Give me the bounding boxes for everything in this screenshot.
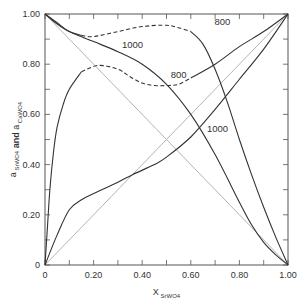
x-axis-title: X SrWO4 (153, 287, 181, 299)
curve-label: 1000 (207, 123, 228, 134)
curve-path (81, 25, 190, 36)
y-axis-label: a SrWO4 and a CaWO4 (8, 101, 23, 177)
y-tick-label: 0.20 (22, 210, 40, 220)
chart-svg: 00.200.400.600.801.0000.200.400.600.801.… (0, 0, 301, 301)
y-tick-label: 0.40 (22, 160, 40, 170)
curve-path (191, 14, 288, 78)
y-tick-label: 0 (35, 260, 40, 270)
x-axis-label: X SrWO4 (153, 287, 181, 299)
x-tick-label: 0.80 (231, 270, 249, 280)
curve-label: 800 (214, 16, 230, 27)
x-tick-label: 0 (42, 270, 47, 280)
x-tick-label: 1.00 (279, 270, 297, 280)
curve-labels: 10008008001000 (122, 16, 230, 134)
curve-path (45, 72, 81, 265)
curve-path (191, 32, 288, 265)
y-tick-label: 0.60 (22, 109, 40, 119)
curve-path (45, 14, 81, 35)
x-tick-label: 0.40 (133, 270, 151, 280)
x-tick-label: 0.20 (85, 270, 103, 280)
y-tick-label: 0.80 (22, 59, 40, 69)
x-tick-label: 0.60 (182, 270, 200, 280)
axis-ticks: 00.200.400.600.801.0000.200.400.600.801.… (22, 9, 296, 280)
curve-label: 800 (171, 69, 187, 80)
curve-label: 1000 (122, 39, 143, 50)
y-tick-label: 1.00 (22, 9, 40, 19)
activity-chart: 00.200.400.600.801.0000.200.400.600.801.… (0, 0, 301, 301)
data-series (45, 14, 288, 265)
y-axis-title: a SrWO4 and a CaWO4 (8, 101, 23, 177)
